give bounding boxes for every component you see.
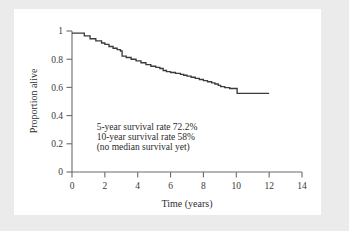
annot-10yr: 10-year survival rate 58% (97, 132, 195, 142)
y-tick-label: 0.8 (51, 55, 63, 65)
annot-5yr: 5-year survival rate 72.2% (97, 122, 198, 132)
x-tick-label: 8 (201, 181, 206, 191)
chart-annotations: 5-year survival rate 72.2%10-year surviv… (97, 122, 198, 153)
y-tick-label: 0.4 (51, 111, 63, 121)
annot-median: (no median survival yet) (97, 142, 190, 153)
y-tick-label: 0.2 (51, 139, 63, 149)
x-tick-label: 10 (232, 181, 242, 191)
x-tick-label: 14 (297, 181, 307, 191)
x-tick-label: 12 (264, 181, 274, 191)
survival-chart: 00.20.40.60.81 02468101214 Time (years) … (0, 0, 349, 231)
x-axis-ticks: 02468101214 (70, 172, 307, 191)
x-tick-label: 4 (135, 181, 140, 191)
survival-curve-line (72, 33, 269, 93)
x-tick-label: 6 (168, 181, 173, 191)
x-tick-label: 0 (70, 181, 75, 191)
figure-container: 00.20.40.60.81 02468101214 Time (years) … (0, 0, 349, 231)
x-axis-title: Time (years) (161, 198, 212, 210)
x-tick-label: 2 (102, 181, 107, 191)
y-axis-ticks: 00.20.40.60.81 (51, 26, 72, 177)
y-tick-label: 0 (58, 167, 63, 177)
y-tick-label: 1 (58, 26, 63, 36)
y-axis-title: Proportion alive (28, 68, 39, 133)
y-tick-label: 0.6 (51, 83, 63, 93)
